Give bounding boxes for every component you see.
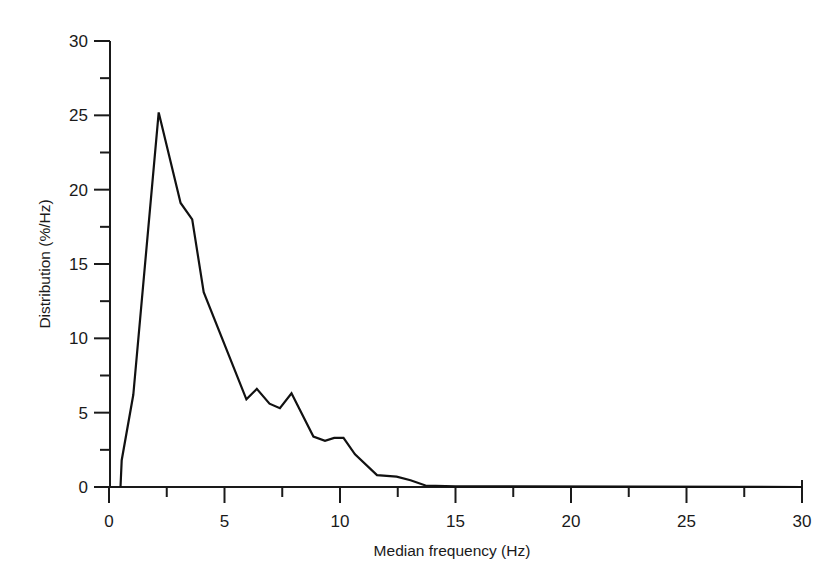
x-tick-label: 25 [677, 512, 696, 531]
x-tick-label: 5 [220, 512, 229, 531]
y-tick-label: 25 [69, 106, 88, 125]
y-axis-title: Distribution (%/Hz) [36, 199, 53, 328]
y-ticks: 051015202530 [69, 32, 110, 497]
y-tick-label: 5 [79, 404, 88, 423]
distribution-line [121, 112, 803, 487]
plot-area [121, 112, 803, 487]
x-axis: 051015202530 Median frequency (Hz) [97, 480, 811, 559]
y-tick-label: 20 [69, 181, 88, 200]
y-axis: 051015202530 Distribution (%/Hz) [36, 32, 110, 497]
x-axis-title: Median frequency (Hz) [374, 542, 531, 559]
x-tick-label: 0 [104, 512, 113, 531]
y-tick-label: 15 [69, 255, 88, 274]
x-tick-label: 20 [562, 512, 581, 531]
y-tick-label: 30 [69, 32, 88, 51]
chart: 051015202530 Distribution (%/Hz) 0510152… [0, 0, 838, 584]
y-tick-label: 0 [79, 478, 88, 497]
x-tick-label: 30 [793, 512, 812, 531]
x-tick-label: 10 [331, 512, 350, 531]
y-tick-label: 10 [69, 329, 88, 348]
x-tick-label: 15 [446, 512, 465, 531]
